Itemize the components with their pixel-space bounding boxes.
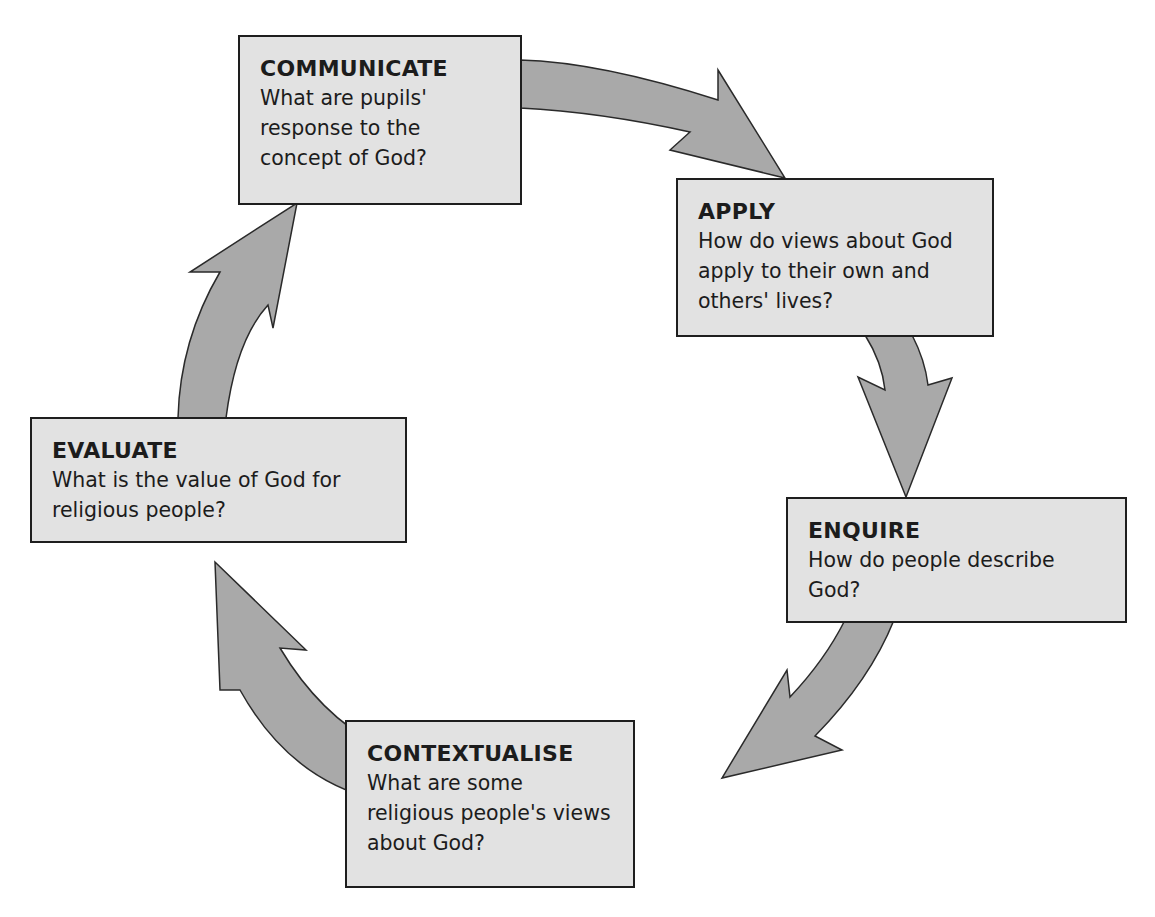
stage-question: How do views about God apply to their ow… [698, 226, 972, 316]
stage-question: What are pupils' response to the concept… [260, 83, 500, 173]
stage-title: APPLY [698, 198, 972, 226]
stage-box-enquire: ENQUIRE How do people describe God? [786, 497, 1127, 623]
stage-title: CONTEXTUALISE [367, 740, 613, 768]
arrow-evaluate-to-communicate [178, 203, 297, 418]
arrow-apply-to-enquire [858, 335, 952, 497]
stage-box-communicate: COMMUNICATE What are pupils' response to… [238, 35, 522, 205]
learning-cycle-diagram: COMMUNICATE What are pupils' response to… [0, 0, 1155, 917]
arrow-enquire-to-contextualise [722, 620, 894, 778]
stage-title: ENQUIRE [808, 517, 1105, 545]
stage-question: What are some religious people's views a… [367, 768, 613, 858]
stage-title: EVALUATE [52, 437, 385, 465]
arrow-communicate-to-apply [520, 60, 785, 178]
stage-question: What is the value of God for religious p… [52, 465, 385, 525]
stage-box-evaluate: EVALUATE What is the value of God for re… [30, 417, 407, 543]
stage-title: COMMUNICATE [260, 55, 500, 83]
stage-question: How do people describe God? [808, 545, 1105, 605]
stage-box-contextualise: CONTEXTUALISE What are some religious pe… [345, 720, 635, 888]
stage-box-apply: APPLY How do views about God apply to th… [676, 178, 994, 337]
